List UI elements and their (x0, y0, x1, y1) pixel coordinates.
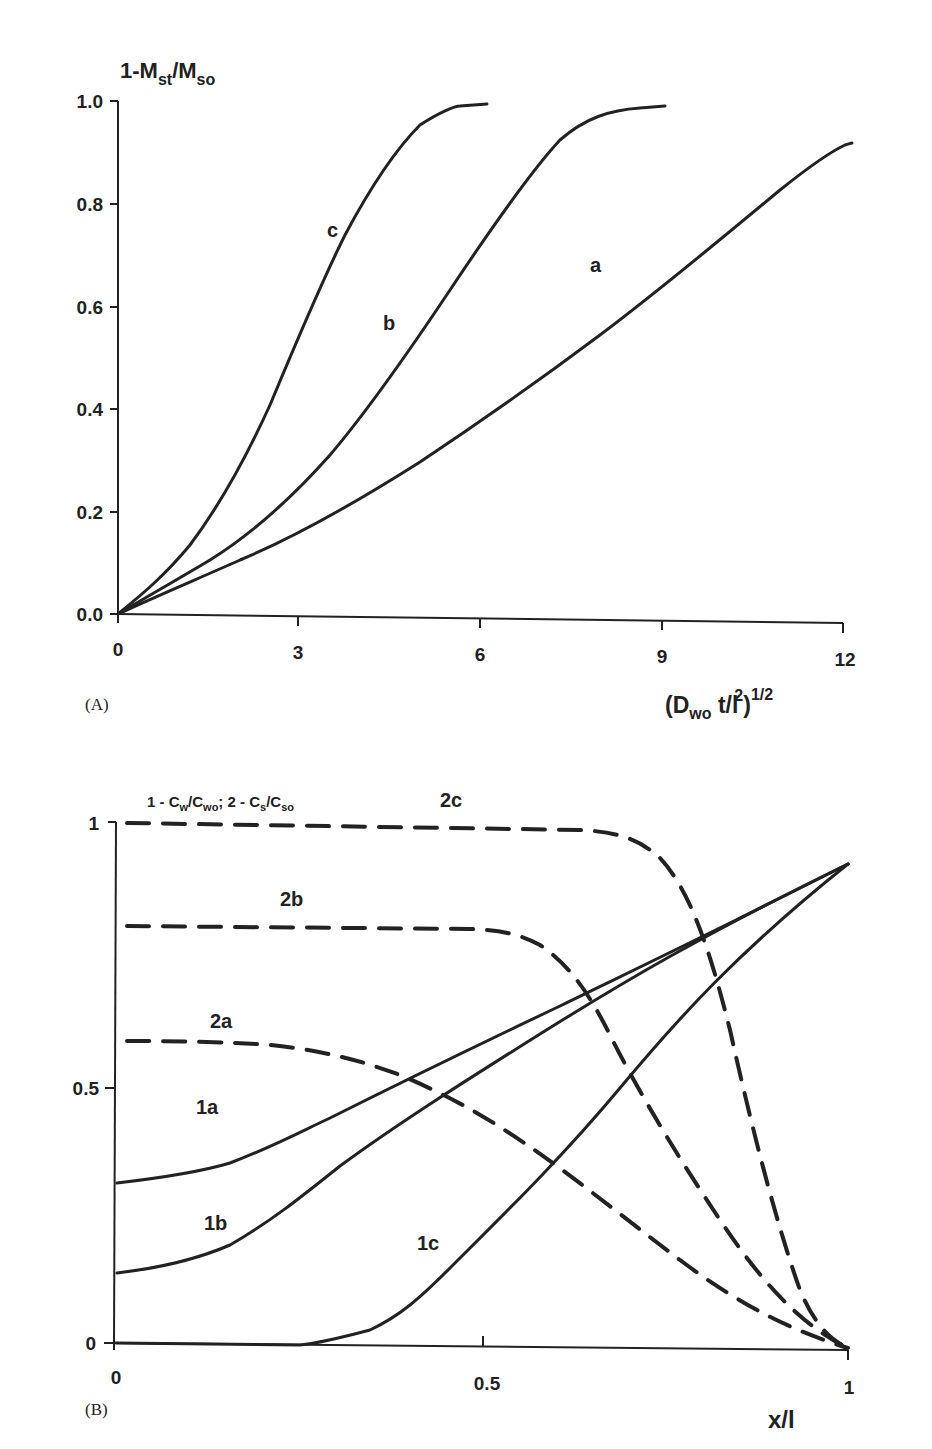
x-tick-label: 6 (475, 644, 486, 665)
panel-b-dashed-curves (127, 823, 848, 1348)
curve-2a (127, 1041, 848, 1348)
panel-a-x-tick-labels: 0 3 6 9 12 (113, 639, 856, 670)
y-tick-label: 0.0 (77, 604, 103, 625)
y-tick-label: 0.2 (77, 502, 103, 523)
curve-label-2b: 2b (280, 888, 303, 910)
y-tick-label: 0.4 (77, 399, 104, 420)
panel-a: 1-Mst/Mso 1.0 0.8 0.6 0.4 0.2 0. (77, 58, 856, 722)
y-tick-label: 0 (85, 1333, 96, 1354)
panel-b-x-title: x/l (768, 1406, 795, 1433)
curve-c (118, 104, 487, 614)
x-tick-label: 1 (844, 1377, 855, 1398)
x-tick-label: 0 (113, 639, 124, 660)
x-tick-label: 9 (657, 646, 668, 667)
panel-b-legend: 1 - Cw/Cwo; 2 - Cs/Cso (147, 793, 294, 813)
x-tick-label: 12 (834, 649, 855, 670)
panel-b-axes (104, 822, 848, 1360)
figure-canvas: 1-Mst/Mso 1.0 0.8 0.6 0.4 0.2 0. (0, 0, 932, 1449)
x-tick-label: 0 (111, 1367, 122, 1388)
curve-label-b: b (383, 312, 395, 334)
y-tick-label: 1 (88, 813, 99, 834)
curve-label-c: c (327, 219, 338, 241)
curve-label-1c: 1c (417, 1232, 439, 1254)
curve-b (118, 106, 665, 614)
panel-b-y-tick-labels: 1 0.5 0 (73, 813, 100, 1354)
panel-a-y-title: 1-Mst/Mso (120, 58, 215, 88)
curve-label-1a: 1a (196, 1096, 219, 1118)
curve-label-1b: 1b (204, 1212, 227, 1234)
panel-b-label: (B) (85, 1400, 108, 1419)
curve-label-2c: 2c (440, 789, 462, 811)
curve-2b (127, 926, 848, 1348)
panel-a-y-tick-labels: 1.0 0.8 0.6 0.4 0.2 0.0 (77, 91, 104, 625)
curve-label-2a: 2a (210, 1010, 233, 1032)
panel-a-curves (118, 104, 852, 614)
panel-b-solid-curves (116, 864, 848, 1345)
y-tick-label: 0.8 (77, 194, 103, 215)
curve-a (118, 143, 852, 614)
x-tick-label: 0.5 (474, 1373, 501, 1394)
curve-1c (116, 864, 848, 1345)
panel-a-x-title: (Dwo t/l2)1/2 (665, 686, 773, 722)
panel-b-x-tick-labels: 0 0.5 1 (111, 1367, 855, 1398)
curve-2c (127, 823, 848, 1348)
curve-label-a: a (590, 254, 602, 276)
panel-b: 1 - Cw/Cwo; 2 - Cs/Cso 1 0.5 0 0 0.5 1 x… (73, 789, 855, 1433)
panel-a-label: (A) (85, 695, 109, 714)
y-tick-label: 1.0 (77, 91, 103, 112)
y-tick-label: 0.5 (73, 1078, 100, 1099)
panel-b-y-axis (114, 822, 116, 1343)
x-tick-label: 3 (293, 642, 304, 663)
y-tick-label: 0.6 (77, 297, 103, 318)
